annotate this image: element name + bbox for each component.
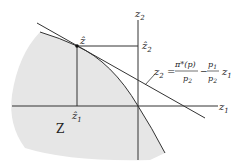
production-set-diagram: ẑ z2 z1 ẑ2 ẑ1 Z z2 = π*(p) p2 − p1 p2 z1 — [0, 0, 242, 167]
fraction2-denominator: p2 — [208, 74, 217, 84]
z2-hat-label: ẑ2 — [141, 40, 152, 54]
fraction1-numerator: π*(p) — [174, 60, 196, 69]
isoprofit-equation: z2 = π*(p) p2 − p1 p2 z1 — [153, 60, 232, 84]
optimal-point-label: ẑ — [79, 35, 86, 46]
fraction1-denominator: p2 — [183, 74, 192, 84]
production-set-region — [11, 32, 165, 160]
svg-text:z2: z2 — [153, 66, 164, 80]
production-set-label: Z — [56, 122, 64, 136]
optimal-point-marker — [75, 44, 79, 48]
svg-text:z1: z1 — [221, 66, 232, 80]
fraction2-numerator: p1 — [208, 60, 217, 70]
z1-axis-label: z1 — [218, 101, 229, 115]
svg-text:−: − — [200, 66, 208, 76]
z2-axis-label: z2 — [134, 8, 145, 22]
